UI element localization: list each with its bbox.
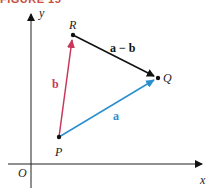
vector-a-minus-b-label: a − b <box>110 41 136 55</box>
point-q-label: Q <box>163 71 172 85</box>
point-r <box>71 33 75 37</box>
vector-b <box>59 40 72 137</box>
vector-a-label: a <box>113 109 119 123</box>
x-axis-label: x <box>199 173 206 187</box>
vector-b-label: b <box>52 77 59 91</box>
y-axis-label: y <box>38 6 45 20</box>
point-p-label: P <box>54 145 63 159</box>
point-r-label: R <box>68 18 77 32</box>
point-p <box>57 135 61 139</box>
origin-label: O <box>18 166 27 180</box>
point-q <box>156 76 160 80</box>
vector-a <box>59 80 154 137</box>
vector-diagram: y x O P R Q b a a − b <box>0 0 206 188</box>
